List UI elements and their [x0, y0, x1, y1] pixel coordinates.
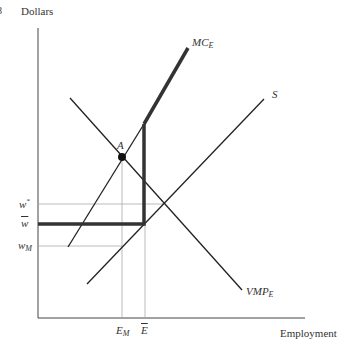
point-a-label: A	[117, 140, 124, 151]
supply-curve	[87, 99, 264, 284]
y-axis-label: Dollars	[21, 6, 53, 17]
vmp-curve	[70, 98, 242, 290]
figure-number: 8	[0, 6, 2, 16]
vmp-curve-label: VMPE	[246, 286, 274, 299]
w-m-label: wM	[18, 240, 32, 253]
w-star-label: w*	[19, 198, 30, 210]
mc-curve-upper	[144, 48, 188, 124]
supply-curve-label: S	[272, 89, 278, 100]
e-bar-label: E	[141, 325, 148, 336]
mc-curve-lower	[68, 124, 144, 247]
minimum-wage-monopsony-diagram	[0, 0, 345, 350]
point-a	[118, 153, 126, 161]
w-bar-label: w	[21, 218, 28, 229]
e-m-label: EM	[116, 325, 129, 338]
x-axis-label: Employment	[280, 328, 337, 339]
mc-curve-label: MCE	[192, 37, 213, 50]
